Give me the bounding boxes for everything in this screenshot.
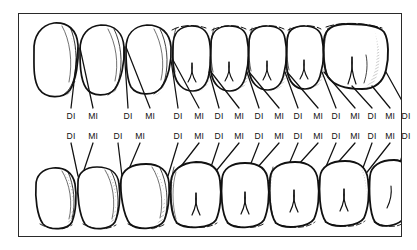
upper-tooth-first-premolar bbox=[173, 26, 212, 91]
lower-tooth-canine bbox=[121, 164, 169, 230]
dental-arch-figure: DIMIDIMIDIMIDIMIDIMIDIMIDIMIDIMIDI DIMID… bbox=[0, 0, 417, 250]
upper-tooth-second-premolar bbox=[211, 26, 251, 91]
upper-arch-group bbox=[34, 23, 388, 97]
lower-tooth-lateral-incisor bbox=[78, 167, 120, 230]
upper-tooth-lateral-incisor bbox=[80, 25, 124, 97]
lower-tooth-terminal-molar bbox=[370, 160, 410, 226]
upper-tooth-posterior-molar bbox=[323, 24, 388, 90]
dental-diagram-drawing bbox=[0, 0, 417, 250]
lower-arch-group bbox=[36, 160, 410, 230]
lower-tooth-central-incisor bbox=[36, 168, 76, 230]
lower-tooth-second-premolar bbox=[222, 163, 270, 228]
lower-tooth-second-molar bbox=[320, 161, 369, 226]
upper-tooth-second-molar bbox=[287, 26, 326, 89]
upper-tooth-central-incisor bbox=[34, 23, 78, 97]
upper-tooth-canine bbox=[126, 25, 171, 96]
upper-tooth-first-molar bbox=[249, 26, 289, 90]
lower-tooth-first-molar bbox=[269, 162, 319, 227]
lower-tooth-first-premolar bbox=[170, 162, 221, 228]
